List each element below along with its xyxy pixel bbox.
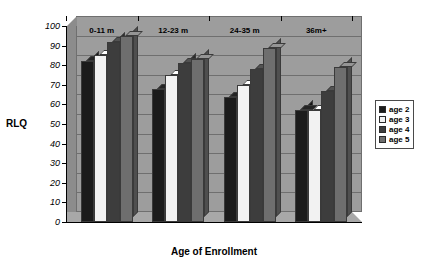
y-axis-tick: [62, 144, 67, 145]
gridline: [76, 16, 362, 17]
y-axis-tick: [62, 124, 67, 125]
legend-item: age 2: [379, 105, 409, 114]
legend-label: age 3: [389, 115, 409, 124]
x-axis: [66, 222, 362, 223]
bar-face: [81, 61, 94, 222]
bar-face: [152, 89, 165, 222]
bar-chart: RLQ 0102030405060708090100 0-11 m12-23 m…: [0, 0, 428, 264]
legend-label: age 5: [389, 135, 409, 144]
bar: [308, 110, 321, 222]
y-axis-tick-label: 20: [50, 178, 60, 188]
bar-face: [107, 42, 120, 222]
legend-swatch-icon: [379, 126, 386, 133]
y-axis-tick-label: 70: [50, 80, 60, 90]
bar: [191, 59, 204, 222]
bar-face: [250, 69, 263, 222]
plot-area: 0102030405060708090100 0-11 m12-23 m24-3…: [66, 16, 362, 222]
bar: [334, 67, 347, 222]
y-axis-tick-label: 60: [50, 99, 60, 109]
bar: [94, 55, 107, 222]
bar-face: [178, 63, 191, 222]
bar-face: [94, 55, 107, 222]
x-axis-tick-label: 0-11 m: [89, 26, 114, 35]
bar: [237, 85, 250, 222]
bar-side: [347, 57, 352, 217]
x-axis-tick: [138, 16, 139, 21]
bar: [152, 89, 165, 222]
x-axis-tick: [209, 16, 210, 21]
y-axis-tick: [62, 85, 67, 86]
chart-legend: age 2age 3age 4age 5: [375, 100, 414, 149]
y-axis-tick-label: 0: [55, 217, 60, 227]
bar-face: [237, 85, 250, 222]
bar: [263, 48, 276, 222]
bar-side: [204, 49, 209, 217]
legend-swatch-icon: [379, 116, 386, 123]
bar-face: [120, 36, 133, 222]
y-axis-title: RLQ: [6, 118, 27, 129]
y-axis-tick-label: 90: [50, 41, 60, 51]
bar-face: [263, 48, 276, 222]
bar-face: [308, 110, 321, 222]
bar-face: [334, 67, 347, 222]
bar: [107, 42, 120, 222]
y-axis-tick: [62, 163, 67, 164]
y-axis-tick: [62, 202, 67, 203]
y-axis-tick-label: 80: [50, 60, 60, 70]
legend-label: age 2: [389, 105, 409, 114]
legend-swatch-icon: [379, 136, 386, 143]
y-axis-tick: [62, 46, 67, 47]
x-axis-tick: [66, 16, 67, 21]
legend-label: age 4: [389, 125, 409, 134]
y-axis-tick-label: 50: [50, 119, 60, 129]
legend-swatch-icon: [379, 106, 386, 113]
bar-face: [295, 110, 308, 222]
chart-side-wall: [66, 26, 76, 222]
bar-side: [133, 26, 138, 217]
x-axis-tick: [352, 16, 353, 21]
bar: [295, 110, 308, 222]
legend-item: age 4: [379, 125, 409, 134]
bar-side: [276, 38, 281, 217]
legend-item: age 3: [379, 115, 409, 124]
x-axis-tick: [281, 16, 282, 21]
legend-item: age 5: [379, 135, 409, 144]
y-axis-tick-label: 40: [50, 139, 60, 149]
x-axis-tick-label: 36m+: [306, 26, 327, 35]
y-axis-tick: [62, 65, 67, 66]
x-axis-title: Age of Enrollment: [0, 246, 428, 257]
bar: [224, 97, 237, 222]
x-axis-tick-label: 24-35 m: [230, 26, 260, 35]
bar: [250, 69, 263, 222]
y-axis-tick: [62, 104, 67, 105]
bar-face: [224, 97, 237, 222]
bar-face: [321, 91, 334, 222]
bar: [81, 61, 94, 222]
y-axis-tick: [62, 26, 67, 27]
y-axis-tick: [62, 183, 67, 184]
bar: [321, 91, 334, 222]
x-axis-tick-label: 12-23 m: [158, 26, 188, 35]
bar-face: [191, 59, 204, 222]
y-axis-tick-label: 30: [50, 158, 60, 168]
y-axis-tick-label: 100: [45, 21, 60, 31]
bar: [120, 36, 133, 222]
bar: [165, 75, 178, 222]
bar: [178, 63, 191, 222]
y-axis-tick-label: 10: [50, 197, 60, 207]
bar-face: [165, 75, 178, 222]
